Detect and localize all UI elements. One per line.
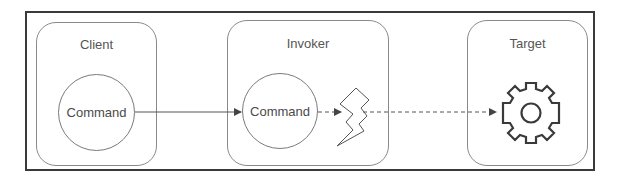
gear-icon bbox=[503, 83, 559, 143]
lightning-bolt-icon bbox=[337, 88, 369, 146]
diagram-connectors bbox=[0, 0, 623, 180]
